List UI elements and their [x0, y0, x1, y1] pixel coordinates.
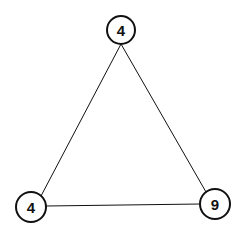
edge-top-bottom-right [121, 44, 206, 192]
node-top: 4 [107, 16, 135, 44]
graph-svg: 4 4 9 [0, 0, 247, 236]
edge-bottom-left-bottom-right [46, 204, 200, 206]
node-top-label: 4 [117, 22, 126, 39]
node-bottom-left-label: 4 [27, 199, 36, 216]
node-bottom-left: 4 [16, 192, 46, 222]
triangle-graph-diagram: 4 4 9 [0, 0, 247, 236]
node-bottom-right-label: 9 [211, 196, 219, 213]
node-bottom-right: 9 [200, 189, 230, 219]
edge-top-bottom-left [41, 44, 121, 196]
